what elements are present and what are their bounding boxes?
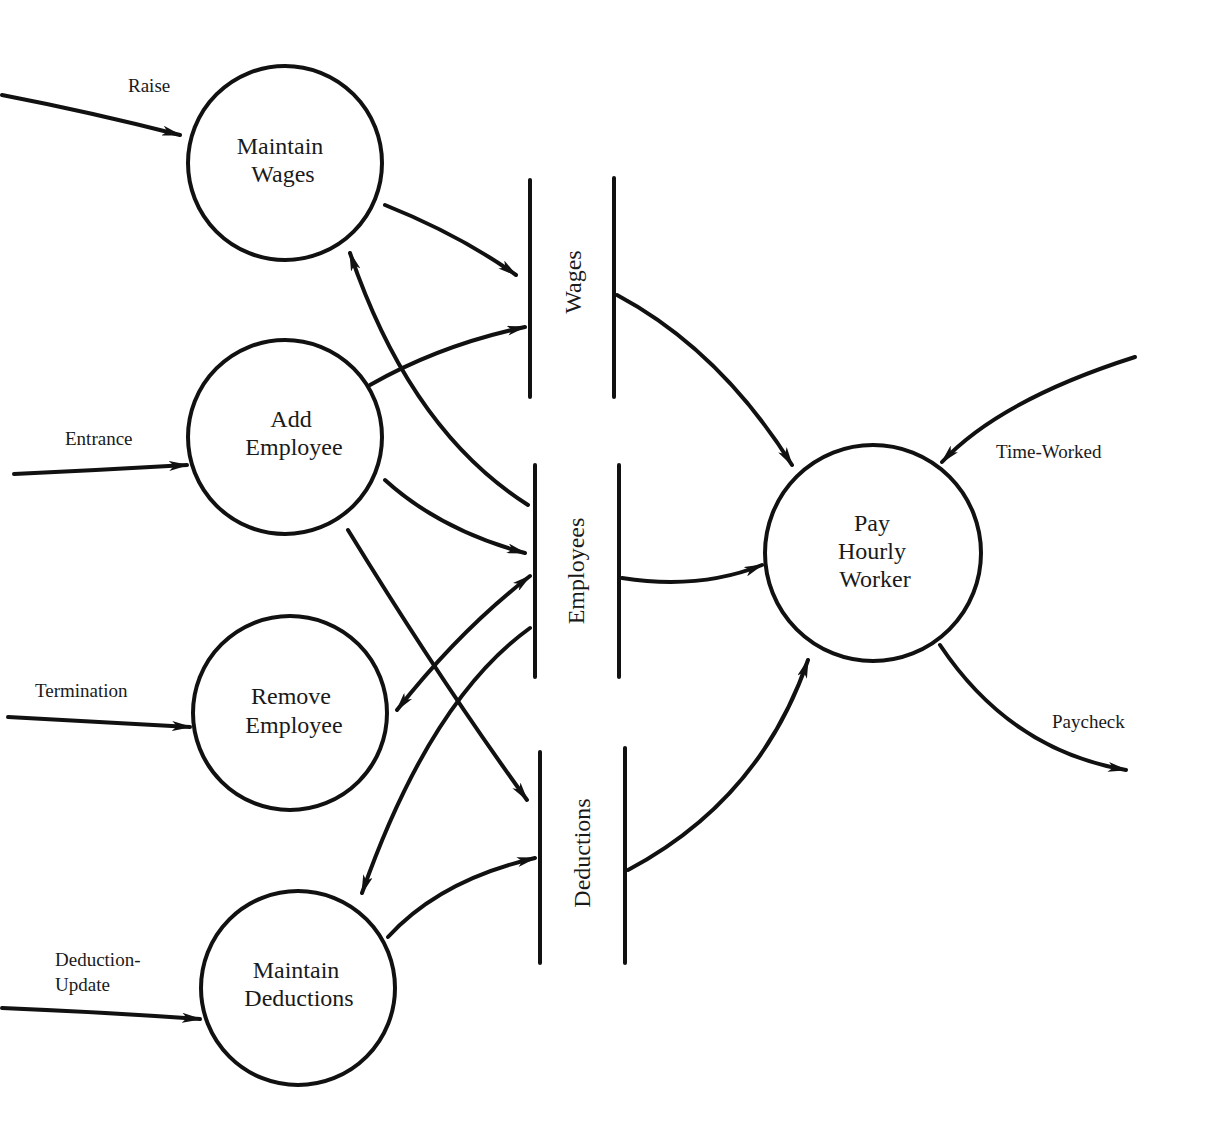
label-deduction-update: Deduction- Update [55,949,145,995]
label-store-deductions: Deductions [569,798,595,907]
label-time-worked: Time-Worked [996,441,1102,462]
flow-raise [2,95,180,135]
label-entrance: Entrance [65,428,133,449]
label-maintain-deductions: Maintain Deductions [244,957,353,1011]
label-termination: Termination [35,680,128,701]
flow-termination [8,717,190,727]
flow-add-employee-to-employees [385,480,525,553]
flow-maintain-wages-to-wages [385,205,516,275]
flow-entrance [14,465,187,474]
data-flow-diagram: Maintain Wages Add Employee Remove Emplo… [0,0,1210,1137]
flow-employees-to-maintain-deductions [362,628,530,893]
label-paycheck: Paycheck [1052,711,1125,732]
label-maintain-wages: Maintain Wages [237,133,330,187]
flow-maintain-deductions-to-deductions [388,858,535,937]
label-store-employees: Employees [563,518,589,625]
label-store-wages: Wages [560,250,586,313]
flow-deductions-to-pay [628,660,808,870]
flow-deduction-update [2,1008,200,1019]
label-remove-employee: Remove Employee [245,683,342,738]
label-pay-hourly-worker: Pay Hourly Worker [838,510,912,592]
label-raise: Raise [128,75,170,96]
flow-employees-to-pay [622,565,762,582]
flow-paycheck [940,645,1126,770]
flow-wages-to-pay [617,295,792,465]
label-add-employee: Add Employee [245,406,342,460]
